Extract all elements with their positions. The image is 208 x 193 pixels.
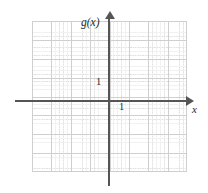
y-axis-tick-label-1: 1	[96, 77, 101, 88]
coordinate-grid-figure: g(x) x 1 1	[0, 0, 208, 193]
y-axis-arrow-icon	[105, 11, 115, 19]
y-axis-line	[108, 18, 110, 186]
y-axis-label: g(x)	[81, 17, 100, 29]
x-axis-label: x	[192, 104, 197, 115]
x-axis-tick-label-1: 1	[119, 102, 124, 113]
x-axis-line	[15, 100, 190, 102]
